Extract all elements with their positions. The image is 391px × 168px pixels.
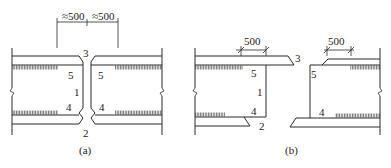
left-beam-a: [12, 56, 83, 124]
right-beam-b: [290, 46, 380, 127]
label-a-4-left: 4: [66, 101, 72, 113]
label-a-1: 1: [74, 86, 80, 98]
dim-label-a-1: ≈500: [62, 10, 85, 22]
label-a-2: 2: [83, 127, 89, 139]
caption-a: (a): [79, 144, 92, 157]
left-beam-b: [195, 46, 294, 126]
panel-a: ≈500 ≈500 3 5 5 1 4 4 2 (a): [10, 10, 164, 157]
label-b-4-right: 4: [319, 106, 325, 118]
right-boundary-b: [378, 48, 382, 135]
label-b-5-right: 5: [311, 68, 317, 80]
caption-b: (b): [285, 144, 298, 157]
left-boundary-b: [193, 48, 197, 135]
label-b-4-left: 4: [251, 105, 257, 117]
panel-b: 500 500 3 5 1 4 2 5 4 (b): [193, 35, 382, 157]
label-a-5-right: 5: [98, 69, 104, 81]
dimension-line-a: [57, 18, 118, 48]
dim-label-b-2: 500: [328, 35, 345, 47]
label-a-3: 3: [83, 47, 89, 59]
right-beam-a: [91, 56, 162, 124]
label-b-5-left: 5: [251, 67, 257, 79]
label-a-5-left: 5: [68, 69, 74, 81]
left-boundary-a: [10, 48, 14, 135]
label-b-3: 3: [295, 52, 301, 64]
right-boundary-a: [160, 48, 164, 135]
label-a-4-right: 4: [99, 101, 105, 113]
dim-label-a-2: ≈500: [92, 10, 115, 22]
label-b-1: 1: [257, 86, 263, 98]
beam-splice-diagram: ≈500 ≈500 3 5 5 1 4 4 2 (a): [0, 0, 391, 168]
dim-label-b-1: 500: [244, 35, 261, 47]
label-b-2: 2: [259, 120, 265, 132]
